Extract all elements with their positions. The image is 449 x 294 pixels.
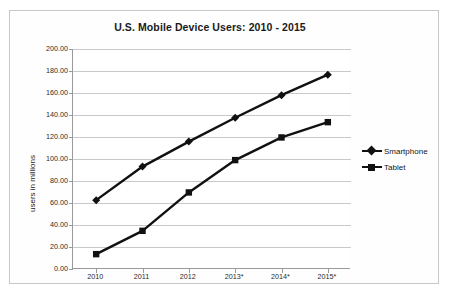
y-tick-mark <box>69 247 73 248</box>
y-tick-label: 180.00 <box>20 67 68 75</box>
x-tick-label: 2014* <box>258 272 304 281</box>
y-tick-label: 140.00 <box>20 111 68 119</box>
y-tick-mark <box>69 181 73 182</box>
y-tick-label: 160.00 <box>20 89 68 97</box>
data-point-smartphone <box>278 91 286 99</box>
data-point-smartphone <box>324 71 332 79</box>
y-tick-mark <box>69 71 73 72</box>
x-axis-labels: 2010201120122013*2014*2015* <box>72 272 350 286</box>
data-point-tablet <box>325 119 331 125</box>
y-tick-label: 60.00 <box>20 199 68 207</box>
data-point-tablet <box>139 228 145 234</box>
x-tick-label: 2013* <box>211 272 257 281</box>
series-line-tablet <box>96 122 328 254</box>
x-tick-label: 2011 <box>119 272 165 281</box>
y-tick-mark <box>69 225 73 226</box>
x-tick-label: 2012 <box>165 272 211 281</box>
legend-item-smartphone[interactable]: Smartphone <box>362 143 446 159</box>
y-tick-label: 100.00 <box>20 155 68 163</box>
data-point-tablet <box>186 189 192 195</box>
data-point-tablet <box>232 157 238 163</box>
plot-area <box>72 49 350 269</box>
legend-marker-square-icon <box>362 161 382 173</box>
y-tick-label: 120.00 <box>20 133 68 141</box>
data-point-tablet <box>278 134 284 140</box>
y-tick-label: 40.00 <box>20 221 68 229</box>
chart-figure: U.S. Mobile Device Users: 2010 - 2015 us… <box>0 0 449 294</box>
series-layer <box>73 49 351 269</box>
y-axis-labels: users in millions 0.0020.0040.0060.0080.… <box>18 49 68 269</box>
x-tick-label: 2010 <box>72 272 118 281</box>
legend-item-tablet[interactable]: Tablet <box>362 159 446 175</box>
data-point-smartphone <box>231 114 239 122</box>
y-tick-mark <box>69 137 73 138</box>
y-tick-mark <box>69 203 73 204</box>
y-tick-label: 200.00 <box>20 45 68 53</box>
y-tick-mark <box>69 269 73 270</box>
y-tick-mark <box>69 49 73 50</box>
x-tick-label: 2015* <box>304 272 350 281</box>
chart-title: U.S. Mobile Device Users: 2010 - 2015 <box>60 21 360 33</box>
legend-label: Tablet <box>382 163 405 172</box>
y-tick-label: 20.00 <box>20 243 68 251</box>
y-tick-mark <box>69 93 73 94</box>
data-point-tablet <box>93 251 99 257</box>
y-tick-mark <box>69 159 73 160</box>
chart-legend: Smartphone Tablet <box>362 143 446 175</box>
y-tick-label: 80.00 <box>20 177 68 185</box>
y-tick-label: 0.00 <box>20 265 68 273</box>
legend-marker-diamond-icon <box>362 145 382 157</box>
series-line-smartphone <box>96 75 328 201</box>
legend-label: Smartphone <box>382 147 428 156</box>
y-tick-mark <box>69 115 73 116</box>
